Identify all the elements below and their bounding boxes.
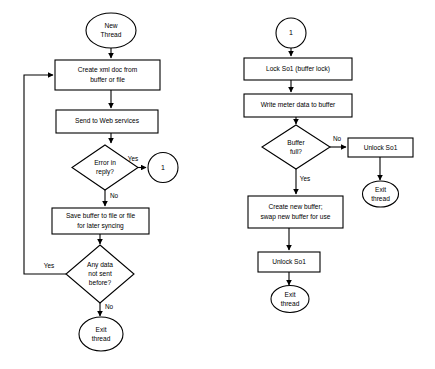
edge-label-buffer-no: No [333, 135, 342, 142]
any-data-label-line3: before? [89, 279, 112, 286]
node-send-to-web-services[interactable]: Send to Web services [56, 110, 158, 133]
write-meter-data-label: Write meter data to buffer [261, 101, 336, 108]
node-connector-one-left[interactable]: 1 [148, 153, 178, 183]
node-unlock-so1-no-branch[interactable]: Unlock So1 [348, 138, 413, 157]
node-create-xml-doc[interactable]: Create xml doc from buffer or file [55, 60, 160, 90]
create-new-buffer-label-line2: swap new buffer for use [261, 213, 331, 221]
error-in-reply-label-line1: Error in [94, 159, 116, 166]
edge-label-error-no: No [110, 192, 119, 199]
node-exit-thread-no-branch[interactable]: Exit thread [363, 181, 399, 207]
save-buffer-label-line1: Save buffer to file or file [66, 212, 135, 219]
buffer-full-label-line2: full? [290, 148, 302, 155]
create-xml-doc-label-line1: Create xml doc from [78, 66, 138, 73]
node-any-data-decision[interactable]: Any data not sent before? [66, 245, 134, 303]
new-thread-label-line2: Thread [101, 31, 122, 38]
node-lock-so1[interactable]: Lock So1 (buffer lock) [244, 58, 352, 80]
send-web-services-label: Send to Web services [75, 117, 140, 124]
create-xml-doc-label-line2: buffer or file [90, 76, 125, 83]
node-connector-one-right[interactable]: 1 [276, 18, 306, 48]
exit-thread-yes-branch-ellipse[interactable] [271, 286, 309, 313]
flowchart-svg: New Thread Create xml doc from buffer or… [0, 0, 435, 369]
exit-thread-no-branch-label-line1: Exit [375, 186, 386, 193]
connector-one-right-label: 1 [289, 29, 293, 36]
node-exit-thread-left[interactable]: Exit thread [79, 317, 123, 351]
exit-thread-no-branch-label-line2: thread [371, 195, 390, 202]
flowchart-canvas: New Thread Create xml doc from buffer or… [0, 0, 435, 369]
node-create-new-buffer[interactable]: Create new buffer; swap new buffer for u… [248, 196, 343, 228]
node-write-meter-data[interactable]: Write meter data to buffer [244, 94, 352, 117]
connector-one-left-label: 1 [161, 164, 165, 171]
edge-label-buffer-yes: Yes [300, 175, 310, 182]
node-unlock-so1-yes-branch[interactable]: Unlock So1 [258, 252, 320, 272]
edge-label-any-data-no: No [105, 303, 114, 310]
node-error-in-reply-decision[interactable]: Error in reply? [72, 145, 138, 190]
create-new-buffer-label-line1: Create new buffer; [268, 203, 322, 210]
left-flowchart: New Thread Create xml doc from buffer or… [24, 13, 178, 351]
buffer-full-label-line1: Buffer [287, 139, 305, 146]
unlock-so1-yes-branch-label: Unlock So1 [272, 258, 306, 265]
exit-thread-left-label-line2: thread [92, 335, 111, 342]
lock-so1-label: Lock So1 (buffer lock) [266, 65, 330, 73]
exit-thread-left-label-line1: Exit [96, 326, 107, 333]
node-buffer-full-decision[interactable]: Buffer full? [262, 125, 330, 169]
save-buffer-label-line2: for later syncing [77, 222, 124, 230]
exit-thread-yes-branch-label-line2: thread [281, 300, 300, 307]
node-exit-thread-yes-branch[interactable]: Exit thread [271, 286, 309, 313]
edge-label-any-data-yes: Yes [44, 262, 54, 269]
node-save-buffer[interactable]: Save buffer to file or file for later sy… [52, 208, 149, 234]
error-in-reply-label-line2: reply? [96, 168, 114, 176]
edge-label-error-yes: Yes [128, 155, 138, 162]
node-new-thread[interactable]: New Thread [86, 13, 136, 48]
exit-thread-no-branch-ellipse[interactable] [363, 181, 399, 207]
unlock-so1-no-branch-label: Unlock So1 [364, 144, 398, 151]
new-thread-label-line1: New [104, 22, 117, 29]
any-data-label-line1: Any data [87, 261, 113, 269]
right-flowchart: 1 Lock So1 (buffer lock) Write meter dat… [244, 18, 413, 313]
edge-any-data-yes-loopback [24, 75, 66, 274]
exit-thread-yes-branch-label-line1: Exit [285, 291, 296, 298]
any-data-label-line2: not sent [88, 270, 112, 277]
